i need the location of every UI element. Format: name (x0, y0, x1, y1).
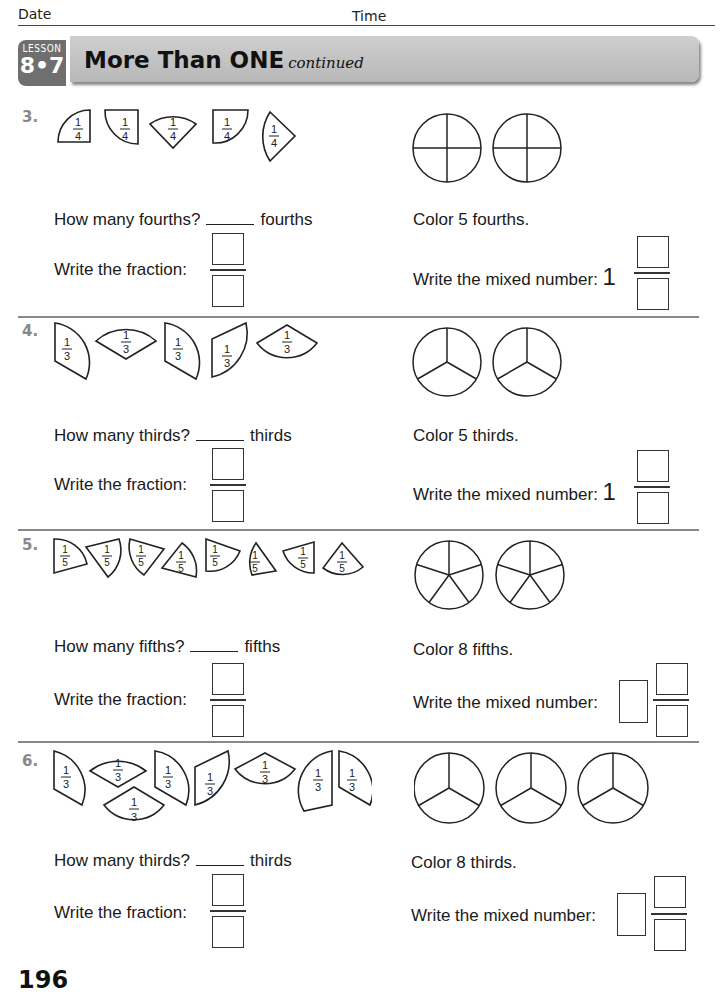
mixed-denominator-box[interactable] (656, 705, 688, 737)
svg-text:5: 5 (212, 557, 218, 568)
svg-text:3: 3 (262, 773, 268, 785)
lesson-number: 8•7 (18, 54, 66, 78)
mixed-number-label: Write the mixed number: (411, 906, 596, 926)
thirds-circles[interactable] (414, 750, 664, 826)
svg-text:1: 1 (224, 116, 230, 128)
svg-text:1: 1 (123, 329, 129, 341)
color-instruction: Color 5 thirds. (413, 426, 519, 446)
how-many-question: How many fourths?fourths (54, 210, 312, 230)
svg-text:3: 3 (131, 811, 137, 823)
fifths-circles[interactable] (414, 537, 574, 613)
answer-blank[interactable] (190, 637, 238, 652)
mixed-numerator-box[interactable] (637, 450, 669, 482)
mixed-denominator-box[interactable] (637, 278, 669, 310)
svg-text:1: 1 (349, 767, 355, 779)
svg-text:5: 5 (104, 557, 110, 568)
mixed-whole: 1 (603, 263, 616, 290)
svg-text:3: 3 (175, 350, 181, 362)
fifth-pieces: 15 15 15 15 15 15 15 15 (52, 535, 372, 583)
mixed-fraction-bar (634, 272, 670, 274)
date-time-line[interactable] (18, 25, 715, 26)
svg-text:5: 5 (300, 559, 306, 570)
svg-text:5: 5 (138, 557, 144, 568)
svg-text:1: 1 (62, 544, 68, 555)
svg-text:5: 5 (252, 563, 258, 574)
third-pieces: 13 13 13 13 13 13 13 13 (52, 749, 372, 825)
svg-text:4: 4 (170, 130, 176, 142)
svg-text:3: 3 (64, 350, 70, 362)
title-subtitle: continued (288, 54, 364, 72)
thirds-circles[interactable] (412, 324, 572, 400)
color-instruction: Color 5 fourths. (413, 210, 529, 230)
mixed-whole-box[interactable] (619, 680, 648, 723)
svg-text:1: 1 (122, 116, 128, 128)
svg-text:1: 1 (212, 544, 218, 555)
problem-number: 5. (22, 536, 38, 554)
mixed-denominator-box[interactable] (637, 492, 669, 524)
svg-text:1: 1 (75, 116, 81, 128)
write-fraction-label: Write the fraction: (54, 903, 187, 923)
svg-text:5: 5 (62, 557, 68, 568)
mixed-numerator-box[interactable] (654, 876, 686, 908)
mixed-whole-box[interactable] (617, 893, 646, 936)
svg-text:3: 3 (284, 343, 290, 355)
svg-text:4: 4 (271, 137, 277, 149)
time-label: Time (352, 8, 386, 24)
problem-number: 3. (22, 108, 38, 126)
how-many-question: How many thirds?thirds (54, 426, 292, 446)
svg-text:1: 1 (63, 764, 69, 776)
svg-text:1: 1 (64, 336, 70, 348)
mixed-whole: 1 (603, 478, 616, 505)
answer-blank[interactable] (196, 426, 244, 441)
svg-text:4: 4 (224, 130, 230, 142)
section-divider (18, 316, 699, 318)
section-divider (18, 529, 699, 531)
fraction-bar (210, 910, 246, 912)
denominator-box[interactable] (212, 490, 244, 522)
mixed-number-label: Write the mixed number: 1 (413, 263, 616, 291)
color-instruction: Color 8 fifths. (413, 640, 513, 660)
svg-text:1: 1 (300, 546, 306, 557)
fraction-bar (210, 269, 246, 271)
svg-text:1: 1 (207, 771, 213, 783)
denominator-box[interactable] (212, 916, 244, 948)
page-number: 196 (18, 966, 68, 992)
mixed-fraction-bar (634, 486, 670, 488)
write-fraction-label: Write the fraction: (54, 260, 187, 280)
numerator-box[interactable] (212, 448, 244, 480)
svg-text:1: 1 (271, 123, 277, 135)
mixed-number-label: Write the mixed number: 1 (413, 478, 616, 506)
answer-blank[interactable] (196, 851, 244, 866)
svg-text:1: 1 (339, 550, 345, 561)
answer-blank[interactable] (206, 210, 254, 225)
numerator-box[interactable] (212, 233, 244, 265)
svg-text:1: 1 (170, 116, 176, 128)
svg-text:3: 3 (349, 781, 355, 793)
numerator-box[interactable] (212, 874, 244, 906)
problem-number: 4. (22, 322, 38, 340)
svg-text:3: 3 (63, 778, 69, 790)
svg-text:1: 1 (224, 343, 230, 355)
svg-text:1: 1 (178, 550, 184, 561)
svg-text:1: 1 (252, 550, 258, 561)
svg-text:1: 1 (115, 757, 121, 769)
write-fraction-label: Write the fraction: (54, 690, 187, 710)
page-title: More Than ONEcontinued (84, 47, 364, 73)
numerator-box[interactable] (212, 663, 244, 695)
svg-text:3: 3 (123, 343, 129, 355)
svg-text:3: 3 (315, 781, 321, 793)
fourths-circles[interactable] (412, 110, 572, 186)
problem-number: 6. (22, 752, 38, 770)
mixed-denominator-box[interactable] (654, 919, 686, 951)
mixed-numerator-box[interactable] (637, 236, 669, 268)
svg-text:1: 1 (104, 544, 110, 555)
denominator-box[interactable] (212, 275, 244, 307)
svg-text:4: 4 (122, 130, 128, 142)
fraction-bar (210, 699, 246, 701)
mixed-numerator-box[interactable] (656, 663, 688, 695)
color-instruction: Color 8 thirds. (411, 853, 517, 873)
date-label: Date (18, 6, 51, 22)
svg-text:5: 5 (178, 563, 184, 574)
denominator-box[interactable] (212, 705, 244, 737)
svg-text:3: 3 (115, 771, 121, 783)
